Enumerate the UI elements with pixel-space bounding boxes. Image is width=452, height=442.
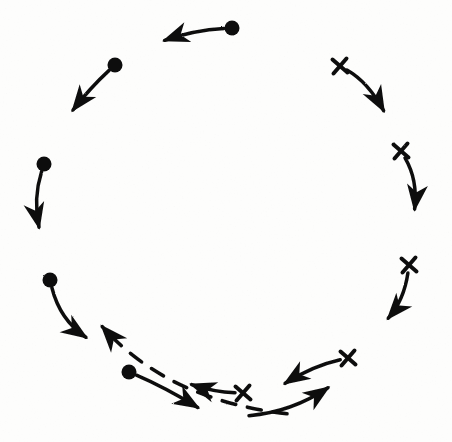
figure-root: Circular arrangement of two marker group…	[0, 0, 452, 442]
marker-dot-2	[108, 58, 123, 73]
circular-arrow-diagram	[0, 0, 452, 442]
marker-dot-3	[37, 157, 52, 172]
scan-noise-texture	[0, 0, 452, 442]
marker-dot-5	[122, 365, 137, 380]
marker-dot-1	[225, 21, 240, 36]
marker-dot-4	[43, 273, 58, 288]
